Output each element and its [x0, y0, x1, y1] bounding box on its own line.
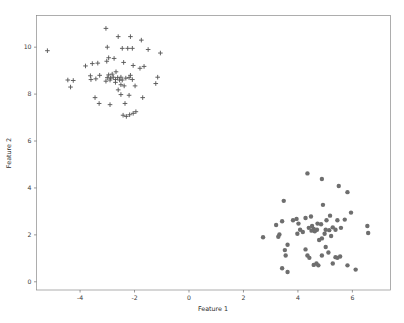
data-point-circle — [307, 256, 311, 260]
data-point-circle — [283, 253, 287, 257]
data-point-circle — [339, 226, 343, 230]
data-point-circle — [298, 228, 302, 232]
data-point-circle — [345, 263, 349, 267]
x-axis-label: Feature 1 — [198, 305, 228, 313]
data-point-circle — [274, 223, 278, 227]
data-point-circle — [321, 203, 325, 207]
data-point-circle — [317, 238, 321, 242]
x-tick-label: -2 — [131, 294, 137, 301]
data-point-circle — [280, 219, 284, 223]
y-tick-label: 0 — [28, 278, 32, 285]
data-point-circle — [312, 263, 316, 267]
data-point-circle — [285, 243, 289, 247]
data-point-circle — [337, 184, 341, 188]
data-point-circle — [324, 218, 328, 222]
x-tick-label: 0 — [187, 294, 191, 301]
data-point-circle — [353, 267, 357, 271]
y-tick-label: 10 — [24, 43, 32, 50]
data-point-circle — [345, 190, 349, 194]
data-point-circle — [329, 234, 333, 238]
data-point-circle — [316, 263, 320, 267]
data-point-circle — [335, 256, 339, 260]
data-point-circle — [320, 177, 324, 181]
data-point-circle — [261, 235, 265, 239]
data-point-circle — [303, 216, 307, 220]
data-point-circle — [283, 248, 287, 252]
y-tick-label: 6 — [28, 137, 32, 144]
data-point-circle — [331, 261, 335, 265]
data-point-circle — [343, 217, 347, 221]
plot-canvas: -4-20246 0246810 Feature 1 Feature 2 — [0, 0, 404, 323]
data-point-circle — [305, 171, 309, 175]
data-point-circle — [307, 226, 311, 230]
data-point-circle — [291, 218, 295, 222]
data-point-circle — [303, 247, 307, 251]
data-point-circle — [322, 231, 326, 235]
data-point-circle — [323, 245, 327, 249]
figure-background — [0, 0, 404, 323]
x-tick-label: -4 — [77, 294, 83, 301]
y-tick-label: 4 — [28, 184, 32, 191]
y-tick-label: 8 — [28, 90, 32, 97]
data-point-circle — [366, 231, 370, 235]
data-point-circle — [333, 228, 337, 232]
scatter-plot-figure: -4-20246 0246810 Feature 1 Feature 2 — [0, 0, 404, 323]
data-point-circle — [295, 231, 299, 235]
data-point-circle — [320, 253, 324, 257]
data-point-circle — [282, 199, 286, 203]
data-point-circle — [285, 270, 289, 274]
data-point-circle — [365, 224, 369, 228]
data-point-circle — [335, 218, 339, 222]
x-tick-label: 2 — [241, 294, 245, 301]
data-point-circle — [296, 221, 300, 225]
data-point-circle — [315, 221, 319, 225]
x-tick-label: 4 — [296, 294, 300, 301]
data-point-circle — [328, 213, 332, 217]
data-point-circle — [327, 228, 331, 232]
y-axis-label: Feature 2 — [5, 138, 13, 168]
data-point-circle — [326, 250, 330, 254]
y-tick-label: 2 — [28, 231, 32, 238]
x-tick-label: 6 — [350, 294, 354, 301]
data-point-circle — [349, 210, 353, 214]
data-point-circle — [276, 235, 280, 239]
data-point-circle — [280, 266, 284, 270]
data-point-circle — [309, 214, 313, 218]
